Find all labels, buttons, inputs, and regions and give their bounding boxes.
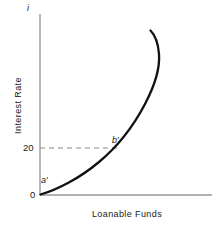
supply-curve xyxy=(41,31,160,195)
curve-point-b-label: b′ xyxy=(112,136,119,145)
x-axis-title: Loanable Funds xyxy=(41,210,213,219)
y-tick-label-0: 0 xyxy=(30,190,35,200)
loanable-funds-chart-figure: i Interest Rate Loanable Funds 20 0 a′ b… xyxy=(0,0,223,230)
y-tick-label-20: 20 xyxy=(23,143,34,153)
y-axis-title: Interest Rate xyxy=(14,60,23,152)
curve-point-a-label: a′ xyxy=(41,176,48,185)
y-axis-variable-label: i xyxy=(27,4,29,13)
